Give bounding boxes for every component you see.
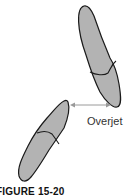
overjet-label: Overjet bbox=[87, 115, 122, 127]
figure-caption: FIGURE 15-20 bbox=[0, 186, 65, 196]
overjet-arrow bbox=[70, 103, 111, 108]
overjet-diagram bbox=[0, 0, 136, 196]
lower-tooth bbox=[19, 100, 69, 181]
upper-tooth bbox=[79, 6, 121, 107]
